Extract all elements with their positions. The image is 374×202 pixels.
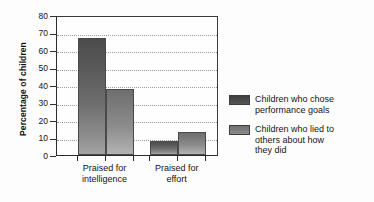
y-axis-tick-label: 40 (22, 82, 48, 90)
y-axis-tick (50, 156, 56, 157)
x-axis-tick (77, 156, 78, 161)
legend-label-line: performance goals (255, 105, 334, 116)
x-axis-category-label-line: effort (129, 174, 225, 185)
legend-label-line: Children who chose (255, 94, 334, 105)
bar (150, 141, 178, 155)
legend-label: Children who lied toothers about howthey… (255, 124, 334, 156)
x-axis-tick (105, 156, 106, 161)
x-axis-tick (133, 156, 134, 161)
bar (106, 89, 134, 156)
x-axis-tick (205, 156, 206, 161)
plot-area (56, 16, 218, 156)
y-axis-tick-label: 60 (22, 47, 48, 55)
legend-swatch (229, 125, 250, 135)
legend-label-line: they did (255, 145, 334, 156)
y-axis-tick-label: 80 (22, 12, 48, 20)
chart-figure: Percentage of children 01020304050607080… (0, 0, 374, 202)
x-axis-category-label: Praised foreffort (129, 163, 225, 185)
legend-swatch (229, 95, 250, 105)
bar (78, 38, 106, 155)
bar-series-group (57, 17, 217, 155)
legend-item: Children who lied toothers about howthey… (229, 124, 371, 156)
y-axis-tick-label: 0 (22, 152, 48, 160)
x-axis-tick (177, 156, 178, 161)
y-axis-tick-label: 30 (22, 99, 48, 107)
y-axis-tick-label: 70 (22, 29, 48, 37)
x-axis-category-label-line: Praised for (129, 163, 225, 174)
x-axis-tick (149, 156, 150, 161)
bar (178, 132, 206, 155)
y-axis-tick-label: 10 (22, 134, 48, 142)
legend-item: Children who choseperformance goals (229, 94, 371, 115)
chart-legend: Children who choseperformance goalsChild… (229, 94, 371, 165)
y-axis-tick-label: 20 (22, 117, 48, 125)
legend-label-line: Children who lied to (255, 124, 334, 135)
legend-label: Children who choseperformance goals (255, 94, 334, 115)
legend-label-line: others about how (255, 135, 334, 146)
y-axis-tick-label: 50 (22, 64, 48, 72)
